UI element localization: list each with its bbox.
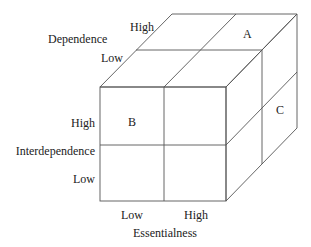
front-face	[100, 87, 226, 201]
right-face	[226, 14, 297, 201]
right-height-divider	[226, 72, 297, 145]
cell-c-label: C	[276, 103, 284, 117]
cell-a-label: A	[243, 27, 252, 41]
essentialness-high-label: High	[176, 208, 216, 222]
dependence-low-label: Low	[101, 51, 123, 65]
dependence-axis-title: Dependence	[48, 32, 107, 46]
top-width-divider	[164, 14, 236, 87]
cell-b-label: B	[128, 115, 136, 129]
essentialness-low-label: Low	[112, 208, 152, 222]
interdependence-high-label: High	[40, 116, 95, 130]
essentialness-axis-title: Essentialness	[120, 226, 210, 240]
dependence-high-label: High	[130, 20, 154, 34]
interdependence-low-label: Low	[40, 172, 95, 186]
interdependence-axis-title: Interdependence	[0, 144, 95, 158]
